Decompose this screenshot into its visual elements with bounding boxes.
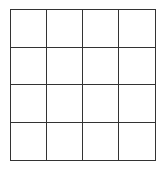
grid-cell-r1-c3 [83,10,119,48]
grid-cell-r2-c3 [83,48,119,86]
grid-cell-r4-c2 [47,123,83,161]
grid-cell-r1-c2 [47,10,83,48]
grid-cell-r4-c1 [11,123,47,161]
grid-cell-r2-c2 [47,48,83,86]
canvas [0,0,163,169]
grid-cell-r4-c4 [119,123,155,161]
grid-cell-r3-c2 [47,85,83,123]
grid-cell-r3-c4 [119,85,155,123]
grid-cell-r1-c4 [119,10,155,48]
grid-cell-r3-c1 [11,85,47,123]
grid-cell-r1-c1 [11,10,47,48]
grid-cell-r3-c3 [83,85,119,123]
grid-cell-r2-c4 [119,48,155,86]
grid-cell-r4-c3 [83,123,119,161]
grid-cell-r2-c1 [11,48,47,86]
grid-4x4 [10,9,156,161]
